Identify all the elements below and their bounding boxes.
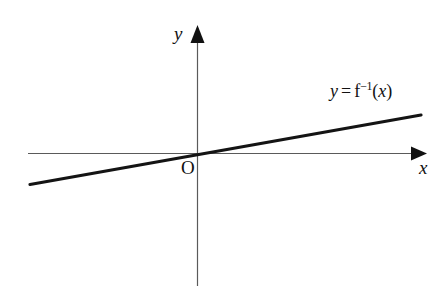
equation-close-paren: ) — [386, 81, 392, 101]
y-axis-arrowhead — [191, 25, 205, 43]
coordinate-plot — [0, 0, 443, 299]
y-axis-label: y — [174, 24, 182, 43]
function-line — [30, 115, 421, 185]
origin-label: O — [181, 158, 195, 177]
function-equation-label: y=f−1(x) — [330, 81, 392, 100]
equation-y-symbol: y — [330, 81, 338, 101]
equation-exponent: −1 — [360, 79, 372, 93]
graph-figure: y x O y=f−1(x) — [0, 0, 443, 299]
equation-equals-sign: = — [338, 81, 354, 101]
x-axis-label: x — [419, 158, 427, 177]
